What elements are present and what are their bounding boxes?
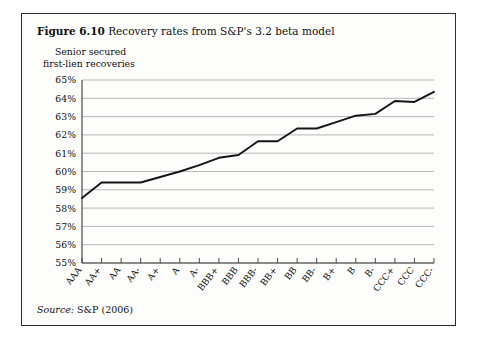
x-axis-tick-label: BBB- [237, 265, 259, 289]
figure-source: Source: S&P (2006) [37, 304, 133, 315]
x-axis-tick-label: A [169, 265, 182, 277]
y-axis-tick-label: 64% [55, 93, 76, 104]
x-axis-tick-label: BB [283, 265, 299, 282]
y-axis-tick-label: 58% [55, 203, 76, 214]
x-axis-tick-label: BB+ [258, 265, 279, 288]
y-axis-tick-label: 62% [55, 129, 76, 140]
x-axis-tick-label: B- [363, 265, 377, 279]
x-axis-tick-label: B [345, 265, 357, 277]
x-axis-tick-label: BBB+ [196, 265, 221, 293]
x-axis-tick-label: AA- [124, 265, 142, 285]
y-axis-tick-label: 65% [55, 74, 76, 85]
x-axis-tick-label: CCC- [413, 265, 435, 290]
series-line-senior-secured [82, 92, 434, 198]
x-axis-tick-label: A+ [145, 265, 162, 283]
y-axis-tick-label: 61% [55, 148, 76, 159]
chart-plot-area: 65%64%63%62%61%60%59%58%57%56%55%AAAAA+A… [22, 14, 457, 327]
source-value: S&P (2006) [77, 304, 133, 315]
x-axis-tick-label: AA+ [82, 265, 103, 288]
y-axis-tick-label: 57% [55, 221, 76, 232]
x-axis-tick-label: AA [106, 265, 123, 283]
source-label: Source: [37, 304, 74, 315]
x-axis-tick-label: BB- [300, 265, 318, 284]
y-axis-tick-label: 55% [55, 257, 76, 268]
x-axis-tick-label: CCC+ [371, 265, 396, 293]
y-axis-tick-label: 56% [55, 239, 76, 250]
x-axis-tick-label: B+ [321, 265, 338, 282]
x-axis-tick-label: A- [187, 265, 201, 279]
y-axis-tick-label: 60% [55, 166, 76, 177]
y-axis-tick-label: 63% [55, 111, 76, 122]
figure-panel: Figure 6.10 Recovery rates from S&P's 3.… [21, 13, 456, 326]
y-axis-tick-label: 59% [55, 184, 76, 195]
line-chart: 65%64%63%62%61%60%59%58%57%56%55%AAAAA+A… [22, 14, 457, 327]
